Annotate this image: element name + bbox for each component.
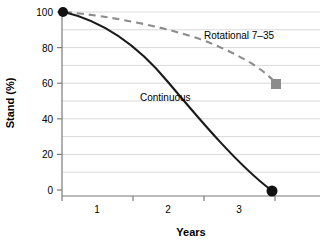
x-tick-label-1: 1: [94, 204, 100, 215]
y-tick-label-0: 0: [47, 185, 53, 196]
y-tick-label-20: 20: [42, 149, 54, 160]
y-axis-title: Stand (%): [4, 77, 16, 128]
stand-percent-vs-years-line-chart: 100 80 60 40 20 0 Stand (%) 1 2 3 Years …: [0, 0, 327, 243]
y-tick-label-40: 40: [42, 114, 54, 125]
marker-continuous-endpoint: [267, 186, 278, 197]
marker-rotational-endpoint: [271, 79, 281, 89]
series-annotation-continuous: Continuous: [140, 92, 191, 103]
series-annotation-rotational: Rotational 7–35: [204, 30, 274, 41]
x-tick-label-2: 2: [165, 204, 171, 215]
x-tick-label-3: 3: [236, 204, 242, 215]
y-tick-label-80: 80: [42, 43, 54, 54]
marker-continuous-start: [58, 7, 68, 17]
x-axis-title: Years: [176, 226, 205, 238]
y-tick-label-60: 60: [42, 78, 54, 89]
chart-container: 100 80 60 40 20 0 Stand (%) 1 2 3 Years …: [0, 0, 327, 243]
y-tick-label-100: 100: [36, 7, 53, 18]
